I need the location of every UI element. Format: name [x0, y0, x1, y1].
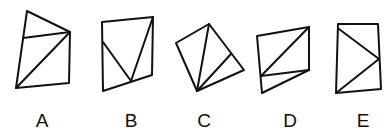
quadrilateral-outline	[102, 17, 153, 91]
quadrilateral-outline	[176, 24, 244, 91]
option-label: C	[197, 110, 211, 131]
figure-option-c: C	[176, 24, 244, 131]
option-label: D	[283, 110, 297, 131]
inner-line	[336, 59, 379, 93]
inner-line	[131, 17, 153, 81]
quadrilateral-outline	[257, 27, 309, 93]
inner-line	[339, 29, 379, 59]
figure-option-b: B	[102, 17, 153, 131]
quadrilateral-outline	[336, 24, 381, 93]
option-label: A	[36, 110, 49, 131]
inner-line	[103, 42, 131, 81]
option-label: E	[357, 110, 370, 131]
inner-line	[16, 32, 70, 88]
inner-line	[23, 32, 70, 38]
figure-options-diagram: ABCDE	[0, 0, 391, 136]
figure-option-d: D	[257, 27, 309, 131]
figure-option-e: E	[336, 24, 381, 131]
option-label: B	[125, 110, 138, 131]
quadrilateral-outline	[16, 11, 70, 88]
figure-option-a: A	[16, 11, 70, 131]
